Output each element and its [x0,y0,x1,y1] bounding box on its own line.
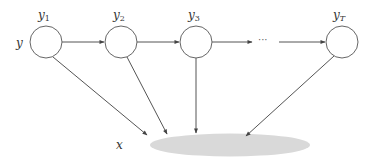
node-y1 [30,26,62,58]
node-label-base: y [38,8,45,22]
observation-x-ellipse [150,134,310,157]
node-label-sub: 2 [120,14,125,23]
node-label-yT: yT [333,9,345,23]
row-label-text: y [16,36,23,50]
edge-y2-x [127,57,167,134]
ellipsis-label: ··· [258,35,268,45]
node-label-y2: y2 [113,9,125,23]
node-label-y1: y1 [38,9,50,23]
observation-label-text: x [116,138,123,152]
node-label-sub: 1 [45,14,50,23]
row-label-y: y [16,37,23,49]
observation-label-x: x [116,139,123,151]
node-yT [326,26,358,58]
node-y3 [180,26,212,58]
node-label-y3: y3 [188,9,200,23]
ellipsis-text: ··· [258,34,268,45]
node-y2 [105,26,137,58]
node-label-sub: 3 [195,14,200,23]
diagram-canvas: y y1 y2 y3 yT ··· x [0,0,373,163]
diagram-graphic [0,0,373,163]
edge-yT-x [246,56,334,136]
node-label-sub: T [340,14,345,23]
node-label-base: y [333,8,340,22]
node-label-base: y [188,8,195,22]
node-label-base: y [113,8,120,22]
